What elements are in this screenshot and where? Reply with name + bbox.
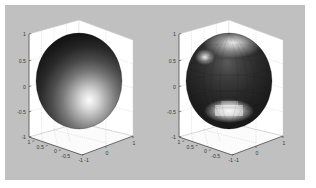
ytick-label: -1: [228, 157, 233, 163]
ytick-label: -1: [78, 157, 83, 163]
xtick-label: 1: [133, 140, 136, 146]
subplot-left[interactable]: 1 0.5 0 -0.5 -1 1 0.5 0 -0.5 -1 -1 0 1: [5, 5, 155, 180]
ztick-label: 0: [23, 84, 26, 90]
ztick-label: -0.5: [167, 109, 176, 115]
xtick-label: 1: [283, 140, 286, 146]
ytick-label: -0.5: [211, 153, 220, 159]
ztick-label: 0.5: [19, 58, 26, 64]
subplot-right[interactable]: 1 0.5 0 -0.5 -1 1 0.5 0 -0.5 -1 -1 0 1: [155, 5, 305, 180]
ztick-label: 1: [23, 31, 26, 37]
figure-canvas: 1 0.5 0 -0.5 -1 1 0.5 0 -0.5 -1 -1 0 1: [5, 5, 305, 180]
ztick-label: 0: [173, 84, 176, 90]
xtick-label: 0: [256, 150, 259, 156]
ytick-label: 0.5: [37, 144, 44, 150]
xtick-label: -1: [234, 157, 239, 163]
ytick-label: -0.5: [61, 153, 70, 159]
ytick-label: 1: [178, 139, 181, 145]
xtick-label: 0: [106, 150, 109, 156]
ytick-label: 0: [204, 148, 207, 154]
ztick-label: -0.5: [17, 109, 26, 115]
ytick-label: 0.5: [187, 144, 194, 150]
ztick-label: -1: [21, 134, 26, 140]
ytick-label: 1: [28, 139, 31, 145]
ztick-label: -1: [171, 134, 176, 140]
ytick-label: 0: [54, 148, 57, 154]
xtick-label: -1: [84, 157, 89, 163]
ztick-label: 1: [173, 31, 176, 37]
ztick-label: 0.5: [169, 58, 176, 64]
